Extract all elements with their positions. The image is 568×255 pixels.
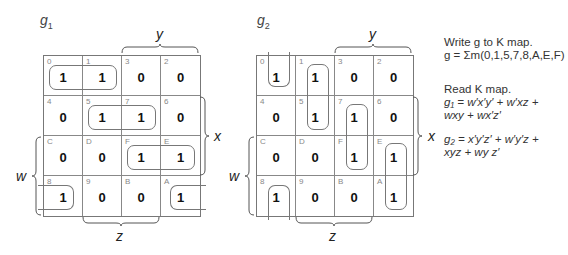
kmap-g2: 01 11 30 20 40 51 71 60 C0 D0 F1 E1 81 9… (256, 55, 414, 217)
brace-x-g1 (200, 96, 210, 176)
kmap-cell: 60 (374, 96, 413, 136)
loop-w'y'z (307, 64, 329, 130)
g1-equation-line1: g₁ = w′x′y′ + w′xz + (444, 96, 538, 109)
label-y-g1: y (156, 26, 163, 42)
g2-equation-line1: g₂ = x′y′z′ + w′y′z + (444, 133, 539, 146)
loop-wx'z'-right (170, 185, 206, 210)
brace-z-g2 (295, 217, 373, 227)
loop-wx'z'-left (38, 185, 74, 210)
brace-y-g2 (334, 44, 412, 54)
map-title-g2: g2 (257, 12, 270, 31)
label-x-g1: x (214, 128, 221, 144)
kmap-cell: 40 (44, 96, 83, 136)
kmap-cell: 90 (296, 176, 335, 216)
brace-x-g2 (413, 96, 423, 176)
label-x-g2: x (428, 128, 435, 144)
label-z-g2: z (329, 228, 336, 244)
kmap-cell: 60 (161, 96, 200, 136)
kmap-cell: B0 (335, 176, 374, 216)
label-y-g2: y (369, 26, 376, 42)
loop-x'y'z'-bottom (268, 185, 290, 220)
write-heading: Write g to K map. (444, 36, 565, 49)
loop-w'xz (88, 105, 156, 130)
kmap-cell: 90 (83, 176, 122, 216)
kmap-cell: 30 (335, 56, 374, 96)
kmap-cell: 30 (122, 56, 161, 96)
loop-x'y'z'-top (268, 52, 290, 87)
brace-w-g2 (245, 136, 255, 216)
kmap-cell: C0 (44, 136, 83, 176)
kmap-cell: 20 (374, 56, 413, 96)
notes-read: Read K map. g₁ = w′x′y′ + w′xz + wxy + w… (444, 83, 538, 122)
label-z-g1: z (116, 228, 123, 244)
kmap-cell: D0 (296, 136, 335, 176)
loop-w'x'y' (49, 65, 117, 90)
notes-g2: g₂ = x′y′z′ + w′y′z + xyz + wy z′ (444, 133, 539, 159)
loop-xyz (346, 104, 368, 170)
kmap-g1: 01 11 30 20 40 51 71 60 C0 D0 F1 E1 81 9… (43, 55, 201, 217)
loop-wyz' (385, 143, 407, 210)
loop-wxy (127, 145, 195, 170)
label-w-g2: w (229, 168, 239, 184)
kmap-cell: 40 (257, 96, 296, 136)
map-title-g1: g1 (40, 12, 53, 31)
g-equation: g = Σm(0,1,5,7,8,A,E,F) (444, 49, 565, 62)
kmap-cell: B0 (122, 176, 161, 216)
brace-z-g1 (82, 217, 160, 227)
brace-w-g1 (32, 136, 42, 216)
read-heading: Read K map. (444, 83, 538, 96)
brace-y-g1 (121, 44, 199, 54)
g1-equation-line2: wxy + wx′z′ (444, 109, 538, 122)
g2-equation-line2: xyz + wy z′ (444, 146, 539, 159)
kmap-cell: D0 (83, 136, 122, 176)
kmap-cell: 20 (161, 56, 200, 96)
notes-write: Write g to K map. g = Σm(0,1,5,7,8,A,E,F… (444, 36, 565, 62)
label-w-g1: w (16, 168, 26, 184)
kmap-cell: C0 (257, 136, 296, 176)
